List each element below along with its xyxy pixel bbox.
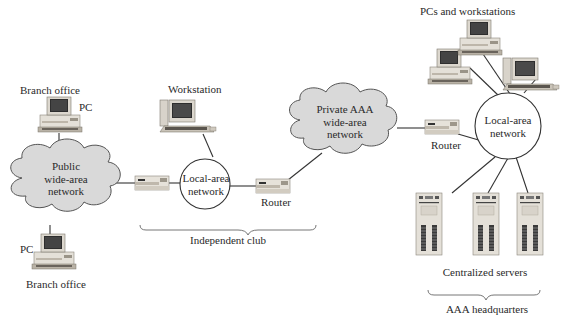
- branch-pc-top-label: PC: [79, 101, 92, 114]
- aaa-headquarters-label: AAA headquarters: [427, 303, 547, 316]
- branch-pc-bottom: [32, 234, 76, 269]
- hq-router-label: Router: [431, 139, 461, 152]
- hq-pc-center: [458, 20, 502, 55]
- club-modem: [135, 176, 169, 190]
- hq-router: [425, 120, 459, 134]
- private-wan-label: Private AAA wide-area network: [306, 103, 384, 141]
- hq-server-3: [517, 193, 543, 255]
- hq-workstation-right: [503, 58, 559, 90]
- independent-club-label: Independent club: [178, 234, 278, 247]
- headquarters-brace: [428, 290, 540, 300]
- branch-office-bottom-label: Branch office: [26, 278, 86, 291]
- workstation-label: Workstation: [168, 83, 222, 96]
- centralized-servers-label: Centralized servers: [425, 266, 545, 279]
- branch-office-top-label: Branch office: [20, 84, 80, 97]
- hq-lan-label: Local-area network: [478, 114, 538, 140]
- network-diagram: Branch office PC Public wide-area networ…: [0, 0, 574, 321]
- public-wan-label: Public wide-area network: [34, 160, 98, 198]
- club-lan-label: Local-area network: [180, 172, 232, 198]
- club-router-label: Router: [261, 196, 291, 209]
- hq-server-2: [473, 193, 499, 255]
- branch-pc-top: [38, 97, 82, 132]
- branch-pc-bottom-label: PC: [20, 243, 33, 256]
- hq-server-1: [416, 193, 442, 255]
- club-router: [256, 179, 290, 193]
- club-workstation: [160, 100, 216, 132]
- pcs-and-workstations-label: PCs and workstations: [420, 5, 515, 18]
